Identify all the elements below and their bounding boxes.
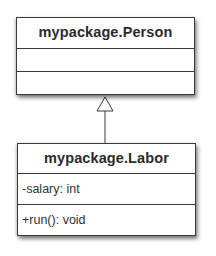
attribute-salary: -salary: int [22, 182, 80, 196]
class-name: mypackage.Person [17, 18, 194, 49]
attributes-compartment [17, 49, 194, 72]
operations-compartment [17, 72, 194, 94]
hollow-triangle-arrowhead-icon [97, 97, 113, 111]
class-box-labor[interactable]: mypackage.Labor -salary: int +run(): voi… [17, 143, 196, 236]
class-box-person[interactable]: mypackage.Person [16, 17, 195, 95]
operations-compartment: +run(): void [18, 205, 195, 235]
attributes-compartment: -salary: int [18, 174, 195, 205]
class-name: mypackage.Labor [18, 144, 195, 174]
operation-run: +run(): void [22, 213, 86, 227]
